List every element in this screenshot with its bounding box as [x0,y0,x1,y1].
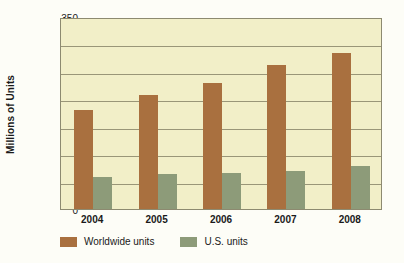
bar-groups [61,19,381,209]
bar [351,166,370,209]
bar [139,95,158,209]
legend-label: Worldwide units [84,236,154,247]
bar [222,173,241,209]
bar-group [61,110,125,209]
legend-item[interactable]: U.S. units [180,236,247,247]
bar [267,65,286,209]
bar [158,174,177,209]
x-axis-tick-label: 2007 [274,214,296,225]
bar-chart-figure: Millions of Units 050100150200250300350 … [0,0,404,263]
bar [286,171,305,209]
bar [332,53,351,209]
plot-area [60,18,382,210]
x-axis-tick-label: 2008 [339,214,361,225]
legend-swatch [60,237,77,247]
bar-group [190,83,254,209]
bar [74,110,93,209]
bar-group [319,53,383,209]
y-axis-title-text: Millions of Units [5,75,16,154]
legend-swatch [180,237,197,247]
x-axis-tick-label: 2004 [81,214,103,225]
bar-group [254,65,318,209]
y-axis-title: Millions of Units [2,18,18,210]
chart-legend: Worldwide unitsU.S. units [60,236,248,247]
legend-label: U.S. units [204,236,247,247]
legend-item[interactable]: Worldwide units [60,236,154,247]
bar [203,83,222,209]
x-axis-tick-label: 2006 [210,214,232,225]
bar-group [125,95,189,209]
x-axis-tick-label: 2005 [145,214,167,225]
bar [93,177,112,209]
